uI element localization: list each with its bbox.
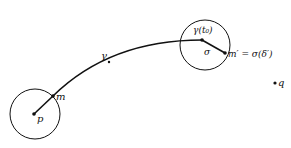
label-gamma: γ (101, 50, 107, 61)
label-m-prime: m′ = σ(δ′) (228, 49, 273, 59)
point-p (32, 112, 36, 116)
radius-p-m (34, 96, 53, 114)
label-sigma: σ (204, 47, 211, 57)
point-q (273, 81, 276, 84)
point-m (51, 94, 55, 98)
point-gamma-mid (108, 61, 110, 63)
point-gamma-t0 (200, 38, 204, 42)
point-m-prime (223, 51, 227, 55)
diagram: p m γ γ(t₀) σ m′ = σ(δ′) q (0, 0, 291, 148)
label-q: q (278, 77, 284, 88)
label-m: m (56, 91, 65, 102)
label-gamma-t0: γ(t₀) (193, 25, 213, 35)
label-p: p (37, 113, 44, 124)
curve-gamma (53, 40, 202, 96)
